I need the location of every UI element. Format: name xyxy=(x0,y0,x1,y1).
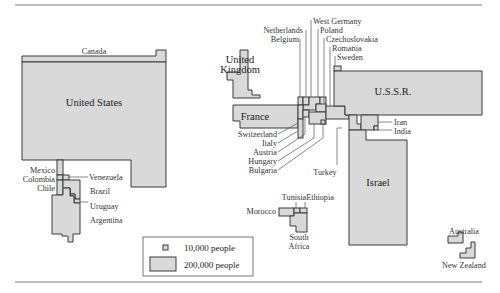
label-ussr: U.S.S.R. xyxy=(375,86,412,97)
country-ethiopia xyxy=(300,208,307,213)
label-czechoslovakia: Czechoslovakia xyxy=(326,35,378,44)
country-czechoslovakia xyxy=(316,104,326,112)
leader-italy xyxy=(278,131,298,143)
leader-bulgaria xyxy=(278,138,323,170)
label-uruguay: Uruguay xyxy=(90,202,120,211)
label-south-africa-1: South xyxy=(289,233,308,242)
label-south-africa-2: Africa xyxy=(289,242,310,251)
label-tunisia: Tunisia xyxy=(282,193,307,202)
country-colombia xyxy=(57,175,63,180)
legend-swatch-small xyxy=(163,245,168,250)
label-romania: Romania xyxy=(332,44,362,53)
label-australia: Australia xyxy=(449,227,479,236)
legend-label-small: 10,000 people xyxy=(184,243,235,253)
label-france: France xyxy=(241,111,270,122)
leader-turkey xyxy=(337,128,342,165)
label-chile: Chile xyxy=(37,184,55,193)
country-venezuela xyxy=(63,175,69,180)
legend-swatch-large xyxy=(150,257,176,271)
legend: 10,000 people 200,000 people xyxy=(143,237,253,276)
label-netherlands: Netherlands xyxy=(263,26,303,35)
country-mexico xyxy=(57,160,63,175)
label-bulgaria: Bulgaria xyxy=(249,166,278,175)
country-sweden xyxy=(334,66,341,71)
label-sweden: Sweden xyxy=(337,53,363,62)
label-israel: Israel xyxy=(366,177,389,188)
label-venezuela: Venezuela xyxy=(89,173,123,182)
label-iran: Iran xyxy=(394,118,407,127)
country-new-zealand xyxy=(460,242,475,258)
country-india xyxy=(374,126,378,130)
label-italy: Italy xyxy=(262,139,278,148)
label-india: India xyxy=(394,127,411,136)
label-argentina: Argentina xyxy=(90,216,123,225)
label-austria: Austria xyxy=(253,148,277,157)
country-morocco xyxy=(279,208,294,216)
label-brazil: Brazil xyxy=(90,187,111,196)
label-hungary: Hungary xyxy=(248,157,278,166)
country-south-africa xyxy=(290,213,307,232)
label-west-germany: West Germany xyxy=(313,17,363,26)
country-bulgaria xyxy=(321,120,325,124)
label-poland: Poland xyxy=(320,26,343,35)
label-switzerland: Switzerland xyxy=(238,130,277,139)
label-colombia: Colombia xyxy=(23,175,56,184)
country-tunisia xyxy=(294,208,300,213)
country-belgium-netherlands xyxy=(298,97,309,105)
country-italy xyxy=(298,119,303,138)
label-new-zealand: New Zealand xyxy=(442,261,486,270)
label-canada: Canada xyxy=(82,47,107,56)
label-belgium: Belgium xyxy=(271,35,300,44)
label-united-kingdom-2: Kingdom xyxy=(220,64,260,75)
label-morocco: Morocco xyxy=(246,207,276,216)
label-ethiopia: Ethiopia xyxy=(306,193,334,202)
legend-label-large: 200,000 people xyxy=(184,260,240,270)
label-united-states: United States xyxy=(66,97,122,108)
leader-austria xyxy=(278,134,305,152)
label-mexico: Mexico xyxy=(30,166,55,175)
country-switzerland xyxy=(298,105,303,119)
label-turkey: Turkey xyxy=(313,168,337,177)
country-austria xyxy=(303,110,309,117)
cartogram: Mexico Colombia Chile Venezuela Brazil U… xyxy=(0,0,500,293)
country-chile xyxy=(57,180,63,195)
country-turkey xyxy=(349,115,361,130)
